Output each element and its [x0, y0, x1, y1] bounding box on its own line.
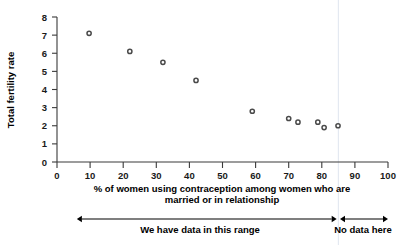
data-point-marker [322, 125, 326, 129]
y-tick-label: 4 [42, 84, 48, 95]
y-tick-label: 5 [42, 66, 48, 77]
data-point-marker [336, 124, 340, 128]
data-point-marker [250, 109, 254, 113]
data-range-label: We have data in this range [140, 224, 260, 235]
data-point-marker [296, 120, 300, 124]
x-axis-title-line2: married or in relationship [165, 194, 280, 205]
x-tick-label: 20 [118, 170, 129, 181]
x-tick-label: 70 [283, 170, 294, 181]
x-tick-label: 0 [54, 170, 59, 181]
no-data-label: No data here [334, 224, 392, 235]
data-point-marker [316, 120, 320, 124]
y-tick-label: 3 [42, 102, 47, 113]
scatter-chart: 012345678 0102030405060708090100 Total f… [0, 0, 420, 245]
data-point-marker [128, 49, 132, 53]
y-tick-label: 2 [42, 120, 47, 131]
data-point-marker [87, 31, 91, 35]
x-tick-label: 100 [380, 170, 396, 181]
x-tick-label: 10 [85, 170, 96, 181]
data-point-marker [194, 78, 198, 82]
y-tick-label: 0 [42, 157, 47, 168]
x-tick-label: 50 [217, 170, 228, 181]
x-tick-label: 30 [151, 170, 162, 181]
x-tick-label: 40 [184, 170, 195, 181]
data-point-marker [161, 60, 165, 64]
chart-background [0, 0, 420, 245]
x-tick-label: 80 [317, 170, 328, 181]
x-tick-label: 60 [250, 170, 261, 181]
y-tick-label: 1 [42, 138, 48, 149]
x-tick-label: 90 [350, 170, 361, 181]
y-tick-label: 7 [42, 30, 47, 41]
y-tick-label: 6 [42, 48, 47, 59]
y-axis-title: Total fertility rate [5, 52, 16, 128]
y-tick-label: 8 [42, 12, 47, 23]
data-point-marker [287, 116, 291, 120]
x-axis-title-line1: % of women using contraception among wom… [94, 183, 351, 194]
